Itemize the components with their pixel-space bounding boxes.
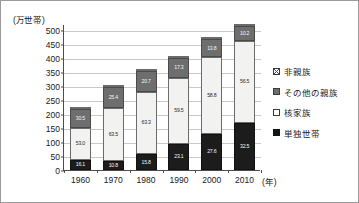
x-axis-tick-mark bbox=[130, 170, 131, 173]
y-axis-tick-mark bbox=[61, 58, 64, 59]
bar-segment-kaku-1960[interactable]: 53.0 bbox=[70, 128, 91, 161]
bar-segment-tandoku-1960[interactable]: 16.1 bbox=[70, 160, 91, 170]
x-axis-tick-label-2000: 2000 bbox=[202, 175, 221, 185]
bar-2000[interactable]: 0.613.858.827.6 bbox=[201, 37, 222, 170]
y-axis-tick-label: 450 bbox=[46, 40, 60, 50]
y-axis-tick-mark bbox=[61, 128, 64, 129]
bar-segment-tandoku-1980[interactable]: 15.8 bbox=[136, 154, 157, 170]
segment-value-label-kaku-1980: 63.3 bbox=[142, 120, 151, 125]
legend-swatch-sonota-icon bbox=[273, 88, 280, 95]
y-axis-tick-label: 150 bbox=[46, 124, 60, 134]
x-axis-tick-label-1980: 1980 bbox=[137, 175, 156, 185]
legend-swatch-hishinzoku-icon bbox=[273, 68, 280, 75]
bar-segment-kaku-1970[interactable]: 63.5 bbox=[103, 108, 124, 161]
y-axis-tick-mark bbox=[61, 142, 64, 143]
gridline bbox=[64, 87, 261, 88]
segment-value-label-kaku-1960: 53.0 bbox=[76, 141, 85, 146]
x-axis-unit-label: (年) bbox=[262, 175, 277, 187]
bar-1980[interactable]: 0.220.763.315.8 bbox=[136, 69, 157, 170]
y-axis-unit-label: (万世帯) bbox=[13, 13, 45, 25]
bar-segment-tandoku-1970[interactable]: 10.8 bbox=[103, 161, 124, 170]
segment-value-label-tandoku-1970: 10.8 bbox=[109, 163, 118, 168]
y-axis-tick-label: 500 bbox=[46, 26, 60, 36]
gridline bbox=[64, 143, 261, 144]
bar-segment-kaku-1990[interactable]: 59.5 bbox=[168, 78, 189, 145]
legend-item-kaku[interactable]: 核家族 bbox=[273, 106, 338, 118]
bar-segment-kaku-1980[interactable]: 63.3 bbox=[136, 92, 157, 155]
legend-swatch-kaku-icon bbox=[273, 109, 280, 116]
x-axis-tick-label-1960: 1960 bbox=[71, 175, 90, 185]
bar-segment-tandoku-2010[interactable]: 32.5 bbox=[234, 123, 255, 170]
x-axis-tick-mark bbox=[228, 170, 229, 173]
legend-label-kaku: 核家族 bbox=[284, 106, 311, 118]
segment-value-label-tandoku-2000: 27.6 bbox=[207, 149, 216, 154]
y-axis-tick-label: 350 bbox=[46, 68, 60, 78]
segment-value-label-sonota-1990: 17.3 bbox=[174, 65, 183, 70]
segment-value-label-sonota-2000: 13.8 bbox=[207, 46, 216, 51]
bar-1960[interactable]: 0.330.553.016.1 bbox=[70, 107, 91, 170]
segment-value-label-sonota-1970: 25.4 bbox=[109, 95, 118, 100]
x-axis-tick-mark bbox=[97, 170, 98, 173]
y-axis-tick-label: 300 bbox=[46, 82, 60, 92]
legend-label-sonota: その他の親族 bbox=[284, 86, 338, 98]
x-axis-tick-mark bbox=[261, 170, 262, 173]
legend-item-tandoku[interactable]: 単独世帯 bbox=[273, 127, 338, 139]
x-axis-tick-mark bbox=[163, 170, 164, 173]
bar-segment-sonota-1990[interactable]: 17.3 bbox=[168, 58, 189, 77]
bar-segment-kaku-2000[interactable]: 58.8 bbox=[201, 57, 222, 134]
bar-segment-sonota-1980[interactable]: 20.7 bbox=[136, 71, 157, 92]
bar-1970[interactable]: 0.325.463.510.8 bbox=[103, 85, 124, 170]
legend-swatch-tandoku-icon bbox=[273, 129, 280, 136]
gridline bbox=[64, 115, 261, 116]
legend-label-hishinzoku: 非親族 bbox=[284, 65, 311, 77]
gridline bbox=[64, 129, 261, 130]
y-axis-tick-mark bbox=[61, 72, 64, 73]
legend-label-tandoku: 単独世帯 bbox=[284, 127, 320, 139]
bar-segment-tandoku-1990[interactable]: 23.1 bbox=[168, 144, 189, 170]
legend-item-sonota[interactable]: その他の親族 bbox=[273, 86, 338, 98]
legend-item-hishinzoku[interactable]: 非親族 bbox=[273, 65, 338, 77]
x-axis-tick-mark bbox=[64, 170, 65, 173]
gridline bbox=[64, 31, 261, 32]
bar-1990[interactable]: 0.217.359.523.1 bbox=[168, 56, 189, 170]
segment-value-label-tandoku-1980: 15.8 bbox=[142, 160, 151, 165]
y-axis-tick-mark bbox=[61, 114, 64, 115]
gridline bbox=[64, 101, 261, 102]
gridline bbox=[64, 59, 261, 60]
y-axis-tick-mark bbox=[61, 156, 64, 157]
y-axis-tick-label: 100 bbox=[46, 138, 60, 148]
segment-value-label-kaku-1990: 59.5 bbox=[174, 108, 183, 113]
gridline bbox=[64, 73, 261, 74]
x-axis-tick-label-2010: 2010 bbox=[235, 175, 254, 185]
bar-segment-sonota-2000[interactable]: 13.8 bbox=[201, 39, 222, 57]
bar-2010[interactable]: 0.910.256.532.5 bbox=[234, 24, 255, 170]
plot-area: 0501001502002503003504004505000.330.553.… bbox=[63, 25, 260, 171]
bar-segment-kaku-2010[interactable]: 56.5 bbox=[234, 41, 255, 123]
x-axis-tick-label-1990: 1990 bbox=[169, 175, 188, 185]
y-axis-tick-mark bbox=[61, 100, 64, 101]
chart-frame: (万世帯) 0501001502002503003504004505000.33… bbox=[0, 0, 359, 203]
x-axis-tick-mark bbox=[195, 170, 196, 173]
bar-segment-sonota-1970[interactable]: 25.4 bbox=[103, 87, 124, 108]
gridline bbox=[64, 157, 261, 158]
bar-segment-tandoku-2000[interactable]: 27.6 bbox=[201, 134, 222, 170]
segment-value-label-tandoku-1990: 23.1 bbox=[174, 154, 183, 159]
y-axis-tick-label: 50 bbox=[51, 152, 60, 162]
segment-value-label-tandoku-1960: 16.1 bbox=[76, 162, 85, 167]
segment-value-label-sonota-1980: 20.7 bbox=[142, 79, 151, 84]
segment-value-label-sonota-1960: 30.5 bbox=[76, 116, 85, 121]
y-axis-tick-label: 200 bbox=[46, 110, 60, 120]
segment-value-label-kaku-2010: 56.5 bbox=[240, 79, 249, 84]
bar-segment-sonota-2010[interactable]: 10.2 bbox=[234, 26, 255, 41]
gridline bbox=[64, 45, 261, 46]
x-axis-tick-label-1970: 1970 bbox=[104, 175, 123, 185]
y-axis-tick-label: 250 bbox=[46, 96, 60, 106]
segment-value-label-tandoku-2010: 32.5 bbox=[240, 144, 249, 149]
y-axis-tick-mark bbox=[61, 30, 64, 31]
segment-value-label-kaku-1970: 63.5 bbox=[109, 132, 118, 137]
bar-segment-sonota-1960[interactable]: 30.5 bbox=[70, 109, 91, 128]
segment-value-label-sonota-2010: 10.2 bbox=[240, 31, 249, 36]
y-axis-tick-label: 0 bbox=[55, 166, 60, 176]
chart-legend: 非親族その他の親族核家族単独世帯 bbox=[273, 65, 338, 139]
y-axis-tick-mark bbox=[61, 44, 64, 45]
